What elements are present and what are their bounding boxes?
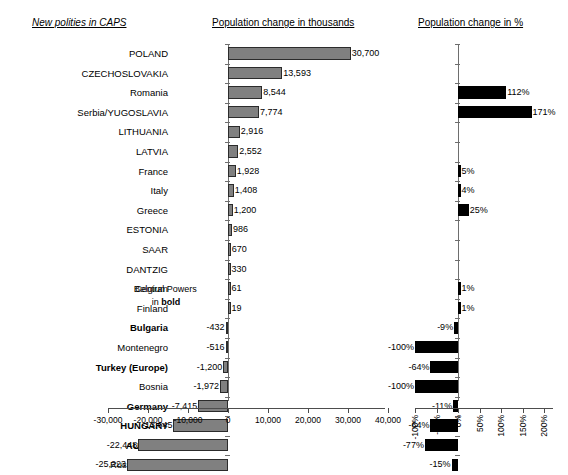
bar-row: 670 (108, 240, 385, 260)
x-axis-tick-label: 0 (226, 415, 231, 425)
bar-thousands-dantzig (228, 263, 231, 275)
axis-tick-mark (225, 240, 230, 241)
bar-percent-france (458, 165, 461, 177)
bar-row: -15% (415, 455, 553, 475)
x-axis-tick (415, 408, 416, 413)
left-panel-title: Population change in thousands (212, 17, 354, 28)
bar-row: 25% (415, 201, 553, 221)
bar-row: 7,774 (108, 103, 385, 123)
axis-tick-mark (225, 436, 230, 437)
panel-percent: 112%171%5%4%25%1%1%-9%-100%-64%-100%-11%… (415, 44, 553, 401)
x-axis-tick-label: 20,000 (295, 415, 321, 425)
bar-percent-serbia-yugoslavia (458, 106, 532, 118)
data-label: -22,448 (107, 439, 138, 452)
legend-note-new-polities: New polities in CAPS (32, 17, 126, 28)
bar-thousands-finland (228, 302, 231, 314)
data-label: 1,200 (234, 204, 257, 217)
bar-percent-greece (458, 204, 469, 216)
axis-tick-mark (455, 220, 460, 221)
axis-tick-mark (455, 260, 460, 261)
bar-thousands-poland (228, 47, 351, 59)
bar-thousands-bosnia (220, 380, 228, 392)
bar-thousands-saar (228, 243, 231, 255)
data-label: 4% (462, 184, 475, 197)
bar-thousands-bulgaria (226, 322, 229, 334)
bar-thousands-france (228, 165, 236, 177)
bar-row: -64% (415, 358, 553, 378)
axis-tick-mark (455, 44, 460, 45)
x-axis-tick-label: -10,000 (174, 415, 203, 425)
bar-percent-finland (458, 302, 461, 314)
bar-row: 986 (108, 220, 385, 240)
axis-tick-mark (225, 397, 230, 398)
bar-row: 1,408 (108, 181, 385, 201)
axis-tick-mark (225, 64, 230, 65)
bar-row (415, 44, 553, 64)
data-label: 5% (462, 165, 475, 178)
bar-percent-romania (458, 86, 506, 98)
axis-tick-mark (455, 338, 460, 339)
bar-row: 30,700 (108, 44, 385, 64)
data-label: -432 (206, 321, 224, 334)
axis-tick-mark (455, 103, 460, 104)
axis-tick-mark (225, 142, 230, 143)
bar-percent-bosnia (415, 380, 458, 392)
bar-row: -100% (415, 338, 553, 358)
bar-thousands-latvia (228, 145, 238, 157)
axis-tick-mark (225, 103, 230, 104)
bar-row (415, 260, 553, 280)
data-label: 30,700 (352, 47, 380, 60)
bar-row (415, 220, 553, 240)
data-label: -64% (408, 361, 429, 374)
bar-row: -100% (415, 377, 553, 397)
bar-thousands-romania (228, 86, 262, 98)
x-axis-tick (188, 408, 189, 413)
bar-row: -432 (108, 318, 385, 338)
data-label: -100% (388, 380, 414, 393)
x-axis-tick (523, 408, 524, 413)
data-label: 112% (507, 86, 529, 99)
right-panel-title: Population change in % (418, 17, 523, 28)
data-label: -15% (430, 458, 451, 471)
bar-percent-belgium (458, 282, 461, 294)
x-axis-tick-label: 10,000 (255, 415, 281, 425)
bar-row: -1,200 (108, 358, 385, 378)
x-axis-tick-label: -30,000 (94, 415, 123, 425)
bar-percent-austria (425, 439, 458, 451)
x-axis-tick (544, 408, 545, 413)
axis-tick-mark (225, 201, 230, 202)
bar-row: 13,593 (108, 64, 385, 84)
axis-tick-mark (225, 338, 230, 339)
bar-row: 1% (415, 299, 553, 319)
bar-row: 5% (415, 162, 553, 182)
data-label: 171% (533, 106, 556, 119)
bar-row: 1,200 (108, 201, 385, 221)
axis-tick-mark (455, 377, 460, 378)
data-label: 13,593 (283, 67, 311, 80)
x-axis-tick (437, 408, 438, 413)
axis-tick-mark (225, 181, 230, 182)
axis-tick-mark (455, 318, 460, 319)
bar-row: 2,916 (108, 122, 385, 142)
axis-tick-mark (455, 279, 460, 280)
x-axis-tick (480, 408, 481, 413)
bar-row: 330 (108, 260, 385, 280)
bar-row: 1,928 (108, 162, 385, 182)
axis-tick-mark (225, 44, 230, 45)
x-axis-tick (148, 408, 149, 413)
bar-row: -7,415 (108, 397, 385, 417)
bar-percent-russia-ussr (452, 459, 458, 471)
bar-percent-bulgaria (454, 322, 458, 334)
x-axis-tick (268, 408, 269, 413)
bar-row: -1,972 (108, 377, 385, 397)
data-label: 1,928 (237, 165, 260, 178)
axis-tick-mark (455, 436, 460, 437)
axis-tick-mark (225, 299, 230, 300)
axis-tick-mark (225, 377, 230, 378)
x-axis-tick-label: -20,000 (134, 415, 163, 425)
x-axis-tick (108, 408, 109, 413)
bar-row (415, 64, 553, 84)
bar-thousands-turkey-europe (223, 361, 228, 373)
bar-thousands-russia-ussr (127, 459, 228, 471)
x-axis-tick-label: 200% (539, 415, 549, 437)
